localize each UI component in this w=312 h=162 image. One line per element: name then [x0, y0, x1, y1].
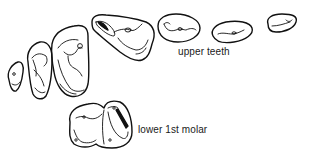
lower-first-molar-label: lower 1st molar	[138, 124, 207, 135]
upper-tooth-2	[28, 42, 52, 99]
teeth-illustration	[0, 0, 312, 162]
upper-tooth-7	[268, 14, 297, 32]
upper-tooth-1	[8, 62, 23, 91]
lower-first-molar	[70, 101, 132, 148]
upper-tooth-5	[158, 14, 200, 42]
upper-teeth-label: upper teeth	[178, 46, 230, 57]
upper-tooth-3	[52, 25, 89, 96]
teeth-diagram: upper teeth lower 1st molar	[0, 0, 312, 162]
upper-tooth-4	[92, 15, 154, 61]
upper-tooth-6	[212, 21, 252, 43]
